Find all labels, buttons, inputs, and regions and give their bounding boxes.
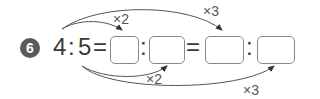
- ratio-colon: :: [246, 33, 253, 61]
- problem-number-badge: 6: [20, 38, 40, 58]
- equals-sign: =: [93, 33, 107, 61]
- bottom-multiplier-label-x2: ×2: [146, 72, 162, 86]
- answer-blank-3[interactable]: [205, 36, 244, 64]
- top-multiplier-label-x2: ×2: [113, 12, 129, 26]
- answer-blank-2[interactable]: [149, 36, 185, 64]
- ratio-colon: :: [68, 33, 75, 61]
- answer-blank-4[interactable]: [257, 36, 295, 64]
- equals-sign: =: [186, 33, 200, 61]
- left-term: 4: [53, 33, 66, 61]
- ratio-colon: :: [140, 33, 147, 61]
- top-multiplier-label-x3: ×3: [203, 4, 219, 18]
- right-term: 5: [78, 33, 91, 61]
- bottom-multiplier-label-x3: ×3: [243, 83, 259, 97]
- answer-blank-1[interactable]: [110, 36, 139, 64]
- problem-number: 6: [26, 40, 34, 56]
